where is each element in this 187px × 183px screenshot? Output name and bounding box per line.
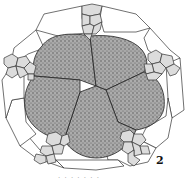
small-cell-cluster-bottom-left [34, 132, 70, 164]
small-cell-cluster-top [82, 4, 102, 40]
figure-label: 2 [156, 154, 164, 167]
figure-caption-fragment: · · · · · · · [58, 174, 100, 182]
small-cell-cluster-left [4, 54, 36, 80]
